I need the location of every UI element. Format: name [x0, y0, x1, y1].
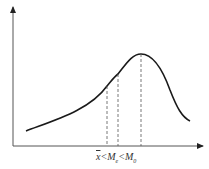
mean-median-mode-label: x<Me<M0: [96, 151, 136, 164]
median-symbol: M: [107, 151, 115, 162]
distribution-curve: [26, 54, 190, 131]
distribution-diagram: [0, 0, 209, 169]
